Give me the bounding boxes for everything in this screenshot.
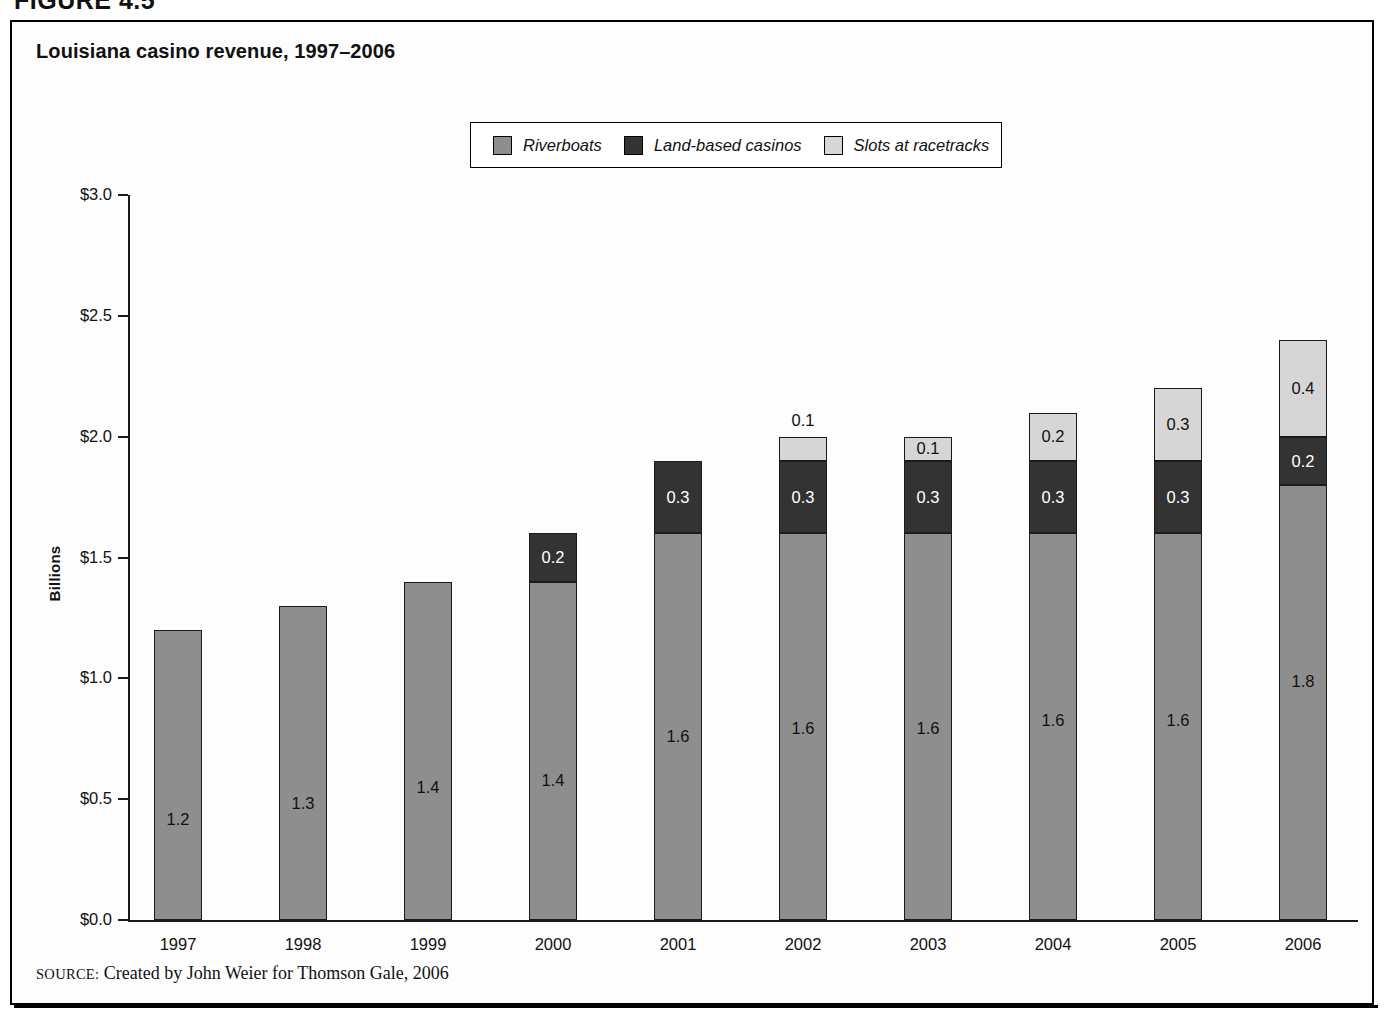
chart-legend: Riverboats Land-based casinos Slots at r… <box>470 122 1002 168</box>
legend-label-slots-at-racetracks: Slots at racetracks <box>854 136 990 155</box>
source-text: Created by John Weier for Thomson Gale, … <box>99 963 448 983</box>
figure-frame-shadow <box>14 1005 1378 1008</box>
legend-label-riverboats: Riverboats <box>523 136 602 155</box>
legend-swatch-riverboats <box>493 136 512 155</box>
legend-swatch-land-based-casinos <box>624 136 643 155</box>
legend-swatch-slots-at-racetracks <box>824 136 843 155</box>
legend-item-land-based-casinos[interactable]: Land-based casinos <box>624 136 802 155</box>
legend-item-riverboats[interactable]: Riverboats <box>493 136 602 155</box>
source-word: SOURCE: <box>36 966 99 982</box>
legend-item-slots-at-racetracks[interactable]: Slots at racetracks <box>824 136 990 155</box>
figure-number-label: FIGURE 4.5 <box>14 0 155 15</box>
source-note: SOURCE: Created by John Weier for Thomso… <box>36 963 449 984</box>
legend-label-land-based-casinos: Land-based casinos <box>654 136 802 155</box>
chart-title: Louisiana casino revenue, 1997–2006 <box>36 40 395 63</box>
